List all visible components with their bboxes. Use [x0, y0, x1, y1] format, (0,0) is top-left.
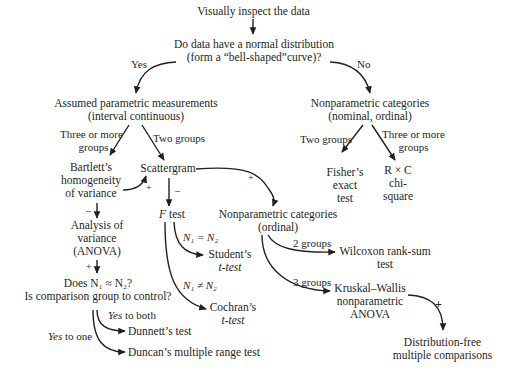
node-text-line: test: [320, 192, 370, 205]
label-yes-to-both: Yes to both: [108, 309, 156, 322]
node-text-line: Analysis of: [65, 219, 129, 232]
node-dunnett: Dunnett’s test: [128, 325, 192, 338]
node-nonparametric-nominal: Nonparametric categories (nominal, ordin…: [300, 97, 440, 123]
label-line: Three or more: [382, 128, 445, 141]
node-nonparametric-ordinal: Nonparametric categories (ordinal): [208, 208, 348, 234]
label-three-or-more-right: Three or more groups: [382, 128, 445, 153]
node-text-line: Cochran’s: [206, 301, 260, 314]
node-text-line: test: [335, 258, 435, 271]
node-text-line: Distribution-free: [385, 336, 500, 349]
node-text-line: homogeneity: [55, 174, 127, 187]
node-fisher: Fisher’s exact test: [320, 166, 370, 205]
node-text-line: Fisher’s: [320, 166, 370, 179]
node-text-line: Nonparametric categories: [208, 208, 348, 221]
node-visually-inspect: Visually inspect the data: [177, 5, 330, 18]
node-students-t-test: Student’s t-test: [203, 248, 257, 274]
node-text: Dunnett’s test: [128, 325, 192, 338]
label-line: groups: [60, 141, 123, 154]
node-distribution-free: Distribution-free multiple comparisons: [385, 336, 500, 362]
node-text-line: (interval continuous): [50, 110, 222, 123]
node-text-line: Wilcoxon rank-sum: [335, 245, 435, 258]
node-text-line: (form a “bell-shaped”curve)?: [160, 51, 348, 64]
node-text-line: multiple comparisons: [385, 349, 500, 362]
node-rxc-chi-square: R × C chi- square: [378, 164, 418, 203]
label-line: groups: [382, 141, 445, 154]
label-line: Three or more: [60, 128, 123, 141]
sign-plus-anova: +: [86, 261, 92, 272]
node-does-n-question: Does N₁ ≈ N₂? Is comparison group to con…: [18, 277, 178, 303]
node-text-line: exact: [320, 179, 370, 192]
node-text-line: nonparametric: [332, 295, 408, 308]
node-text-line: chi-: [378, 177, 418, 190]
node-parametric: Assumed parametric measurements (interva…: [50, 97, 222, 123]
label-two-groups-right: Two groups: [300, 133, 352, 146]
sign-plus-bartlett: +: [146, 182, 152, 193]
node-text-line: variance: [65, 232, 129, 245]
node-text-line: Student’s: [203, 248, 257, 261]
node-text: Scattergram: [136, 162, 200, 175]
node-text-line: Assumed parametric measurements: [50, 97, 222, 110]
node-text-line: Do data have a normal distribution: [160, 38, 348, 51]
node-scattergram: Scattergram: [136, 162, 200, 175]
node-text-line: (ordinal): [208, 221, 348, 234]
node-text-line: (ANOVA): [65, 245, 129, 258]
label-two-groups-left: Two groups: [153, 132, 205, 145]
node-text-line: of variance: [55, 187, 127, 200]
label-2-groups: 2 groups: [293, 237, 331, 250]
node-text-line: t-test: [206, 314, 260, 327]
node-text-line: Is comparison group to control?: [18, 290, 178, 303]
node-wilcoxon: Wilcoxon rank-sum test: [335, 245, 435, 271]
label-yes: Yes: [131, 58, 147, 71]
node-text-line: ANOVA: [332, 308, 408, 321]
node-text-line: square: [378, 190, 418, 203]
f-rest: test: [166, 208, 185, 220]
node-text-line: (nominal, ordinal): [300, 110, 440, 123]
node-kruskal-wallis: Kruskal–Wallis nonparametric ANOVA: [332, 282, 408, 321]
node-text-line: Does N₁ ≈ N₂?: [18, 277, 178, 290]
label-three-or-more-left: Three or more groups: [60, 128, 123, 153]
node-text-line: Nonparametric categories: [300, 97, 440, 110]
label-italic: Yes: [108, 309, 122, 321]
node-normal-distribution-question: Do data have a normal distribution (form…: [160, 38, 348, 64]
node-text-line: Kruskal–Wallis: [332, 282, 408, 295]
label-rest: to both: [122, 309, 156, 321]
edge-scatter-plus: [196, 168, 274, 206]
node-text-line: Bartlett’s: [55, 161, 127, 174]
label-rest: to one: [62, 330, 92, 342]
label-no: No: [357, 58, 370, 71]
sign-minus-scatter: –: [175, 185, 180, 196]
node-anova: Analysis of variance (ANOVA): [65, 219, 129, 258]
node-text: Duncan’s multiple range test: [128, 346, 260, 359]
node-text-line: t-test: [203, 261, 257, 274]
sign-minus-bartlett: –: [86, 205, 91, 216]
label-italic: Yes: [48, 330, 62, 342]
node-cochrans-t-test: Cochran’s t-test: [206, 301, 260, 327]
label-yes-to-one: Yes to one: [48, 330, 92, 343]
label-3-groups: 3 groups: [293, 276, 331, 289]
sign-plus-scatter: +: [248, 172, 254, 183]
label-n-equal: N₁ = N₂: [183, 231, 218, 244]
node-text: F test: [152, 208, 192, 221]
sign-plus-kruskal: +: [435, 297, 442, 312]
node-duncan: Duncan’s multiple range test: [128, 346, 260, 359]
node-text-line: R × C: [378, 164, 418, 177]
node-f-test: F test: [152, 208, 192, 221]
node-bartlett: Bartlett’s homogeneity of variance: [55, 161, 127, 200]
label-n-not-equal: N₁ ≠ N₂: [183, 279, 217, 292]
node-text: Visually inspect the data: [177, 5, 330, 18]
